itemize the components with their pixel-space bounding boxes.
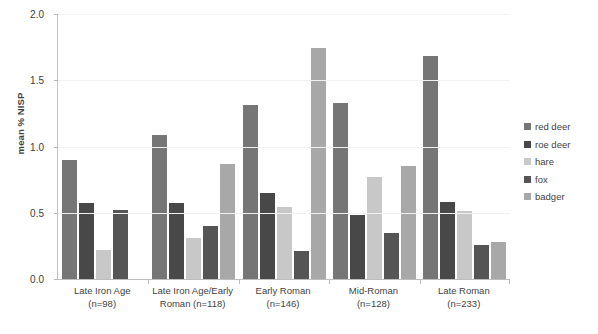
bar-badger[interactable]	[491, 242, 506, 279]
legend-item-fox[interactable]: fox	[524, 171, 570, 189]
legend-item-hare[interactable]: hare	[524, 153, 570, 171]
legend-item-red-deer[interactable]: red deer	[524, 118, 570, 136]
bar-roe-deer[interactable]	[169, 203, 184, 279]
bar-hare[interactable]	[367, 177, 382, 279]
cropped-caption	[8, 329, 438, 334]
y-axis-tick-label: 2.0	[0, 9, 44, 20]
x-axis-category-label: Late Roman(n=233)	[419, 285, 509, 325]
bar-red-deer[interactable]	[62, 160, 77, 279]
y-axis-tick-label: 1.0	[0, 141, 44, 152]
x-axis-group-separator	[329, 279, 330, 284]
bar-fox[interactable]	[113, 210, 128, 279]
bar-badger[interactable]	[311, 48, 326, 279]
y-axis-tickmark	[54, 279, 58, 280]
bar-red-deer[interactable]	[423, 56, 438, 279]
bar-red-deer[interactable]	[333, 103, 348, 279]
legend-label: red deer	[535, 121, 570, 132]
bar-hare[interactable]	[277, 207, 292, 279]
bar-fox[interactable]	[474, 245, 489, 279]
x-axis-category-label: Late Iron Age(n=98)	[57, 285, 147, 325]
bar-chart: mean % NISP 0.00.51.01.52.0 Late Iron Ag…	[0, 0, 598, 334]
bar-badger[interactable]	[220, 164, 235, 279]
bar-roe-deer[interactable]	[79, 203, 94, 279]
bar-fox[interactable]	[294, 251, 309, 279]
bar-roe-deer[interactable]	[350, 215, 365, 279]
bar-fox[interactable]	[384, 233, 399, 279]
x-axis-category-label: Early Roman(n=146)	[238, 285, 328, 325]
x-axis-category-label: Mid-Roman(n=128)	[328, 285, 418, 325]
y-axis-tick-label: 0.0	[0, 274, 44, 285]
bar-roe-deer[interactable]	[260, 193, 275, 279]
y-axis-tick-labels: 0.00.51.01.52.0	[0, 0, 52, 334]
bar-fox[interactable]	[203, 226, 218, 279]
legend-swatch-icon	[524, 123, 531, 130]
x-axis-group-separator	[148, 279, 149, 284]
bar-hare[interactable]	[96, 250, 111, 279]
y-axis-tick-label: 1.5	[0, 75, 44, 86]
legend-label: fox	[535, 174, 548, 185]
y-axis-tickmark	[54, 14, 58, 15]
y-axis-tickmark	[54, 213, 58, 214]
x-axis-group-separator	[420, 279, 421, 284]
gridline	[58, 80, 510, 81]
legend-swatch-icon	[524, 176, 531, 183]
gridline	[58, 213, 510, 214]
x-axis-group-separator	[239, 279, 240, 284]
chart-legend: red deerroe deerharefoxbadger	[524, 118, 570, 206]
x-axis-category-label: Late Iron Age/EarlyRoman (n=118)	[147, 285, 237, 325]
y-axis-tick-label: 0.5	[0, 207, 44, 218]
legend-label: roe deer	[535, 139, 570, 150]
y-axis-tickmark	[54, 147, 58, 148]
legend-item-roe-deer[interactable]: roe deer	[524, 136, 570, 154]
x-axis-category-labels: Late Iron Age(n=98)Late Iron Age/EarlyRo…	[57, 285, 509, 325]
bar-hare[interactable]	[186, 238, 201, 279]
bar-red-deer[interactable]	[243, 105, 258, 279]
legend-swatch-icon	[524, 158, 531, 165]
legend-label: hare	[535, 156, 554, 167]
legend-label: badger	[535, 191, 565, 202]
bar-badger[interactable]	[401, 166, 416, 279]
legend-item-badger[interactable]: badger	[524, 188, 570, 206]
legend-swatch-icon	[524, 141, 531, 148]
y-axis-tickmark	[54, 80, 58, 81]
gridline	[58, 147, 510, 148]
legend-swatch-icon	[524, 193, 531, 200]
x-axis-group-separator	[509, 279, 510, 284]
bar-hare[interactable]	[457, 211, 472, 279]
gridline	[58, 14, 510, 15]
plot-area	[57, 14, 510, 280]
bar-red-deer[interactable]	[152, 135, 167, 279]
